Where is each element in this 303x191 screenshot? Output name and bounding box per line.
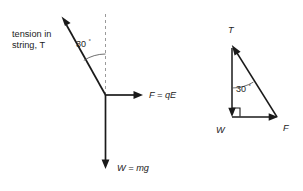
tension-label-line2: string, T: [12, 40, 45, 50]
tension-label-line1: tension in: [12, 29, 51, 39]
triangle-angle-degree-symbol: °: [249, 83, 252, 89]
angle-arc-30-deg: [84, 54, 106, 60]
triangle-force-label: F: [283, 123, 290, 133]
electric-force-label: F = qE: [149, 90, 177, 100]
fbd-angle-value: 30: [76, 39, 86, 49]
triangle-tension-side: [232, 45, 277, 117]
electric-force-arrowhead-icon: [134, 91, 144, 99]
fbd-angle-degree-symbol: °: [89, 38, 92, 44]
physics-force-diagram: tension in string, T 30 ° F = qE W = mg …: [0, 0, 303, 191]
triangle-weight-side: [228, 48, 235, 117]
triangle-weight-arrowhead-icon: [228, 108, 235, 117]
triangle-tension-arrowhead-icon: [232, 45, 241, 56]
triangle-tension-label: T: [228, 25, 235, 35]
weight-vector: [102, 95, 110, 169]
vector-triangle: T W F 30 °: [216, 25, 290, 135]
tension-vector: [62, 17, 106, 96]
tension-vector-shaft: [67, 25, 106, 95]
free-body-diagram: tension in string, T 30 ° F = qE W = mg: [12, 14, 177, 173]
triangle-weight-label: W: [216, 125, 226, 135]
weight-label: W = mg: [117, 163, 150, 173]
weight-arrowhead-icon: [102, 160, 110, 170]
triangle-angle-value: 30: [236, 84, 246, 94]
triangle-force-side: [232, 113, 278, 120]
electric-force-vector: [106, 91, 144, 99]
tension-arrowhead-icon: [62, 17, 71, 27]
